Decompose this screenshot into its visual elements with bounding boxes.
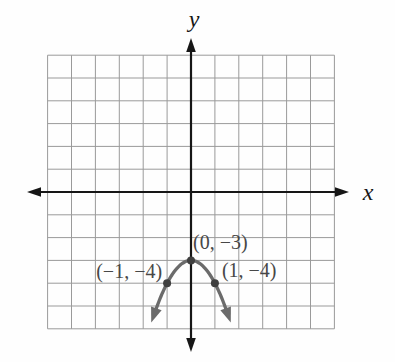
point-label-2: (1, −4): [222, 259, 277, 282]
point-label-0: (0, −3): [193, 231, 248, 254]
data-point-1: [163, 279, 171, 287]
data-point-0: [187, 256, 195, 264]
x-axis-label: x: [362, 179, 374, 205]
x-axis-left-arrow-icon: [27, 187, 41, 197]
y-axis-bottom-arrow-icon: [186, 338, 196, 352]
y-axis-label: y: [187, 6, 200, 32]
parabola-right-arrow-icon: [220, 306, 231, 322]
y-axis-top-arrow-icon: [186, 38, 196, 52]
data-point-2: [211, 279, 219, 287]
graph-svg: (0, −3)(−1, −4)(1, −4)yx: [0, 0, 395, 362]
coordinate-plane-figure: (0, −3)(−1, −4)(1, −4)yx: [0, 0, 395, 362]
point-label-1: (−1, −4): [96, 260, 162, 283]
x-axis-right-arrow-icon: [335, 187, 349, 197]
parabola-left-arrow-icon: [151, 306, 162, 322]
